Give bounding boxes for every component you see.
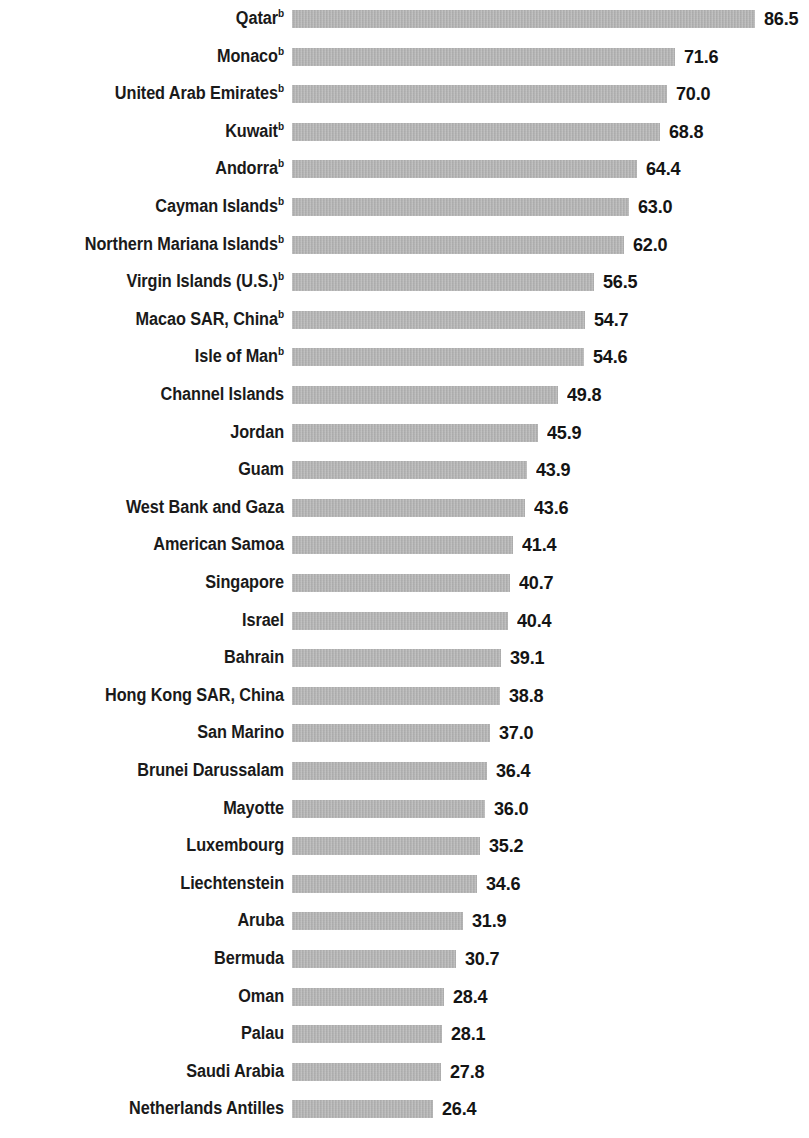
- bar: [292, 762, 487, 780]
- bar-value-label: 38.8: [509, 677, 543, 715]
- bar: [292, 273, 594, 291]
- bar-track: [292, 414, 538, 452]
- bar-track: [292, 376, 558, 414]
- bar-category-label: Jordan: [20, 414, 284, 452]
- bar-category-label: Guam: [20, 451, 284, 489]
- bar-category-label: American Samoa: [20, 526, 284, 564]
- bar-row: Monacob71.6: [0, 38, 809, 76]
- bar: [292, 85, 667, 103]
- bar: [292, 800, 485, 818]
- bar-value-label: 45.9: [547, 414, 581, 452]
- bar-row: Cayman Islandsb63.0: [0, 188, 809, 226]
- bar-row: Luxembourg35.2: [0, 827, 809, 865]
- bar-category-label: West Bank and Gaza: [20, 489, 284, 527]
- bar-track: [292, 978, 444, 1016]
- bar-row: Hong Kong SAR, China38.8: [0, 677, 809, 715]
- bar-value-label: 28.4: [453, 978, 487, 1016]
- bar: [292, 724, 490, 742]
- bar-value-label: 36.4: [496, 752, 530, 790]
- bar-row: Brunei Darussalam36.4: [0, 752, 809, 790]
- bar-track: [292, 1053, 441, 1091]
- bar-category-label: Qatarb: [20, 0, 284, 38]
- bar-track: [292, 1090, 433, 1128]
- bar-track: [292, 489, 525, 527]
- bar-category-label: Kuwaitb: [20, 113, 284, 151]
- bar-row: United Arab Emiratesb70.0: [0, 75, 809, 113]
- bar-category-label: Virgin Islands (U.S.)b: [20, 263, 284, 301]
- bar-row: Palau28.1: [0, 1015, 809, 1053]
- bar-value-label: 64.4: [646, 150, 680, 188]
- bar-category-label: Bahrain: [20, 639, 284, 677]
- bar-value-label: 68.8: [669, 113, 703, 151]
- bar: [292, 536, 513, 554]
- bar-row: Bahrain39.1: [0, 639, 809, 677]
- bar-row: Saudi Arabia27.8: [0, 1053, 809, 1091]
- bar-category-label: Netherlands Antilles: [20, 1090, 284, 1128]
- bar-row: West Bank and Gaza43.6: [0, 489, 809, 527]
- bar-value-label: 43.6: [534, 489, 568, 527]
- bar-category-label: San Marino: [20, 714, 284, 752]
- bar-track: [292, 38, 675, 76]
- bar-value-label: 71.6: [684, 38, 718, 76]
- bar-track: [292, 940, 456, 978]
- bar-track: [292, 564, 510, 602]
- footnote-marker: b: [278, 82, 284, 94]
- bar: [292, 912, 463, 930]
- bar-track: [292, 865, 477, 903]
- bar-category-label: Mayotte: [20, 790, 284, 828]
- bar-track: [292, 677, 500, 715]
- bar-category-label: Bermuda: [20, 940, 284, 978]
- bar-row: Northern Mariana Islandsb62.0: [0, 226, 809, 264]
- bar-value-label: 26.4: [442, 1090, 476, 1128]
- bar-track: [292, 451, 527, 489]
- bar-value-label: 39.1: [510, 639, 544, 677]
- bar-row: Singapore40.7: [0, 564, 809, 602]
- bar-value-label: 62.0: [633, 226, 667, 264]
- bar: [292, 499, 525, 517]
- bar-track: [292, 301, 585, 339]
- bar-category-label: Brunei Darussalam: [20, 752, 284, 790]
- bar: [292, 311, 585, 329]
- bar-value-label: 41.4: [522, 526, 556, 564]
- footnote-marker: b: [278, 45, 284, 57]
- bar-row: Israel40.4: [0, 602, 809, 640]
- bar-category-label: Singapore: [20, 564, 284, 602]
- bar-value-label: 70.0: [676, 75, 710, 113]
- bar-value-label: 40.7: [519, 564, 553, 602]
- footnote-marker: b: [278, 233, 284, 245]
- bar-category-label: Israel: [20, 602, 284, 640]
- bar-track: [292, 0, 755, 38]
- bar-value-label: 37.0: [499, 714, 533, 752]
- bar-row: American Samoa41.4: [0, 526, 809, 564]
- bar-track: [292, 902, 463, 940]
- bar-row: Bermuda30.7: [0, 940, 809, 978]
- bar-row: Liechtenstein34.6: [0, 865, 809, 903]
- footnote-marker: b: [278, 120, 284, 132]
- footnote-marker: b: [278, 270, 284, 282]
- bar-row: Netherlands Antilles26.4: [0, 1090, 809, 1128]
- bar-row: Aruba31.9: [0, 902, 809, 940]
- bar: [292, 687, 500, 705]
- bar-category-label: Hong Kong SAR, China: [20, 677, 284, 715]
- bar-track: [292, 150, 637, 188]
- bar-category-label: Monacob: [20, 38, 284, 76]
- bar: [292, 612, 508, 630]
- bar-row: Channel Islands49.8: [0, 376, 809, 414]
- bar-track: [292, 188, 629, 226]
- bar: [292, 950, 456, 968]
- bar-row: Macao SAR, Chinab54.7: [0, 301, 809, 339]
- bar: [292, 1063, 441, 1081]
- bar-row: Oman28.4: [0, 978, 809, 1016]
- bar: [292, 875, 477, 893]
- bar-category-label: Aruba: [20, 902, 284, 940]
- bar-value-label: 54.7: [594, 301, 628, 339]
- bar: [292, 424, 538, 442]
- footnote-marker: b: [278, 308, 284, 320]
- bar-category-label: Luxembourg: [20, 827, 284, 865]
- bar: [292, 837, 480, 855]
- bar: [292, 348, 584, 366]
- bar: [292, 1100, 433, 1118]
- bar-track: [292, 226, 624, 264]
- bar-value-label: 31.9: [472, 902, 506, 940]
- bar-track: [292, 639, 501, 677]
